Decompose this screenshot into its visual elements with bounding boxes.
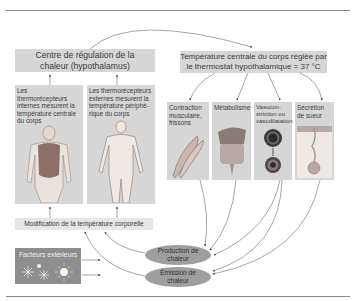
effector-vessel-label: Vasocon-striction ou vasodilatation [254, 102, 292, 125]
setpoint-line1: Température centrale du corps réglée par [180, 52, 327, 62]
arrow-production-to-modification [105, 232, 145, 253]
heat-production-ellipse: Production de chaleur [145, 245, 211, 265]
external-receptors-text: Les thermorécepteurs externes mesurent l… [87, 85, 155, 117]
arrow-setpoint-to-sweat [300, 73, 322, 100]
setpoint-line2: le thermostat hypothalamique = 37 °C [180, 62, 327, 72]
sweat-gland-icon [297, 126, 332, 178]
effector-sweat-panel: Sécrétion de sueur [295, 102, 334, 180]
regulation-center-box: Centre de régulation de la chaleur (hypo… [15, 49, 155, 72]
effector-muscle-panel: Contraction musculaire, frissons [167, 102, 209, 180]
digestive-organs-icon [214, 122, 250, 178]
effector-sweat-label: Sécrétion de sueur [295, 102, 334, 119]
bottom-rule [6, 296, 350, 297]
body-skin-icon [91, 119, 151, 203]
arrow-regulation-to-setpoint [90, 30, 252, 49]
arrow-setpoint-to-vessel [268, 73, 280, 100]
regulation-center-line1: Centre de régulation de la [15, 50, 155, 61]
snowflake-icon [39, 270, 49, 280]
arrow-setpoint-to-muscle [190, 73, 215, 100]
internal-receptors-text: Les thermorécepteurs internes mesurent l… [15, 85, 81, 125]
top-rule [6, 10, 350, 11]
arrow-muscle-to-production [200, 180, 207, 246]
arrow-vessel-to-emission [213, 180, 282, 271]
modification-label: Modification de la température corporell… [24, 220, 143, 227]
heat-emission-ellipse: Émission de chaleur [145, 267, 211, 287]
heat-production-line1: Production de [145, 247, 211, 255]
effector-metabolism-label: Métabolisme [212, 102, 251, 112]
effector-vessel-panel: Vasocon-striction ou vasodilatation [254, 102, 292, 180]
internal-receptors-panel: Les thermorécepteurs internes mesurent l… [15, 85, 83, 204]
muscle-icon [169, 132, 207, 178]
blood-vessel-icon [258, 128, 288, 178]
external-factors-label: Facteurs extérieurs [15, 248, 81, 258]
arrow-sweat-to-emission [213, 180, 320, 274]
weather-icons [18, 261, 78, 283]
regulation-center-line2: chaleur (hypothalamus) [15, 61, 155, 72]
body-core-icon [19, 125, 79, 203]
arrow-setpoint-to-metabolism [237, 73, 248, 100]
arrow-vessel-to-production [214, 180, 280, 255]
snowflake-icon [22, 266, 34, 278]
external-receptors-panel: Les thermorécepteurs externes mesurent l… [87, 85, 155, 204]
heat-emission-line1: Émission de [145, 269, 211, 277]
setpoint-box: Température centrale du corps réglée par… [180, 51, 327, 73]
arrow-metabolism-to-production [210, 180, 236, 250]
external-factors-box: Facteurs extérieurs [15, 248, 81, 284]
sun-icon [55, 263, 73, 281]
modification-box: Modification de la température corporell… [15, 218, 153, 230]
heat-production-line2: chaleur [145, 255, 211, 263]
arrow-emission-to-modification [85, 232, 145, 276]
effector-metabolism-panel: Métabolisme [212, 102, 251, 180]
effector-muscle-label: Contraction musculaire, frissons [167, 102, 209, 127]
heat-emission-line2: chaleur [145, 277, 211, 285]
